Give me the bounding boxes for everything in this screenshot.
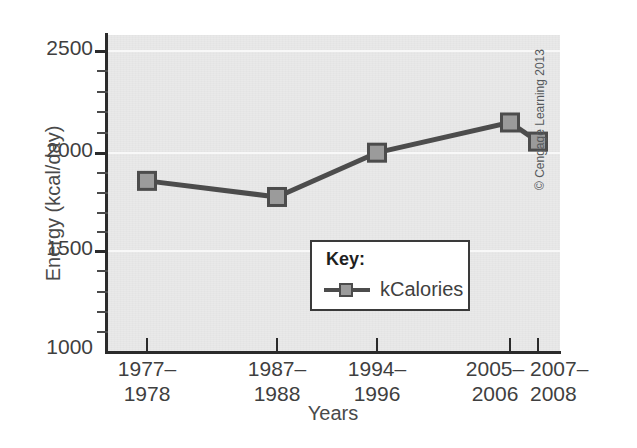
y-tick-minor-2300 [97, 91, 108, 93]
legend-swatch-icon [324, 281, 370, 299]
x-tick-1994-1996 [376, 338, 378, 352]
y-tick-major-1500 [95, 250, 108, 253]
legend-entry-kcalories: kCalories [324, 278, 463, 301]
y-tick-minor-2400 [97, 70, 108, 72]
y-tick-minor-1200 [97, 311, 108, 313]
x-tick-label-1977-1978: 1977– 1978 [92, 356, 202, 406]
x-tick-label-line-1: 2007– [530, 356, 630, 381]
y-tick-minor-1600 [97, 231, 108, 233]
x-tick-label-line-1: 1977– [92, 356, 202, 381]
y-tick-major-2500 [95, 50, 108, 53]
y-tick-minor-2200 [97, 111, 108, 113]
x-tick-1977-1978 [146, 338, 148, 352]
y-tick-minor-1400 [97, 270, 108, 272]
copyright-credit: © Cengage Learning 2013 [533, 0, 547, 190]
y-tick-label-1000: 1000 [15, 335, 93, 359]
x-axis-line [105, 351, 561, 354]
y-tick-minor-1800 [97, 192, 108, 194]
x-tick-2005-2006 [509, 338, 511, 352]
x-tick-2007-2008 [537, 338, 539, 352]
y-tick-minor-1100 [97, 331, 108, 333]
y-tick-minor-1700 [97, 212, 108, 214]
x-tick-label-line-2: 2008 [530, 381, 630, 406]
legend-title: Key: [326, 249, 365, 270]
x-tick-label-2007-2008: 2007– 2008 [530, 356, 630, 406]
y-tick-minor-2100 [97, 132, 108, 134]
x-tick-label-line-2: 1978 [92, 381, 202, 406]
gridline-2500 [108, 50, 560, 52]
x-tick-label-1994-1996: 1994– 1996 [322, 356, 432, 406]
legend-label-kcalories: kCalories [380, 278, 463, 301]
y-tick-label-2500: 2500 [15, 36, 93, 60]
y-axis-title: Energy (kcal/day) [42, 74, 65, 334]
gridline-2000 [108, 152, 560, 154]
y-tick-major-2000 [95, 152, 108, 155]
x-tick-label-1987-1988: 1987– 1988 [222, 356, 332, 406]
x-tick-label-line-1: 1987– [222, 356, 332, 381]
y-tick-minor-1900 [97, 172, 108, 174]
x-tick-label-line-1: 1994– [322, 356, 432, 381]
x-axis-title: Years [258, 402, 408, 425]
chart-figure: 2500 2000 1500 1000 Energy (kcal/day) 19… [0, 0, 637, 448]
legend: Key: kCalories [310, 240, 470, 311]
x-tick-1987-1988 [276, 338, 278, 352]
y-tick-minor-1300 [97, 291, 108, 293]
